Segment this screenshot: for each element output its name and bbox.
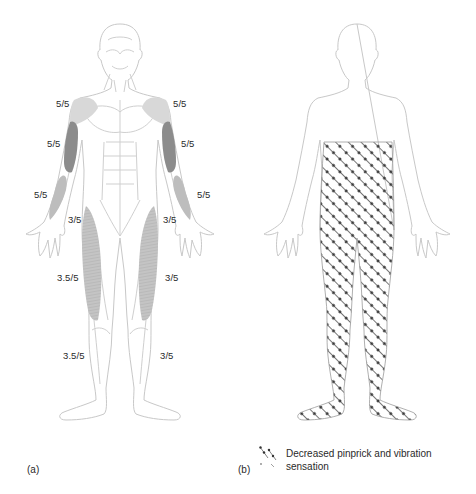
panel-a-muscle-strength: 5/5 5/5 5/5 5/5 5/5 5/5 3/5 3/5 3.5/5 3/… [0, 0, 240, 494]
panel-a-label: (a) [27, 464, 39, 475]
anatomical-body-front-muscles [0, 0, 240, 494]
grade-left-hip: 3/5 [163, 214, 177, 225]
affected-area-hatch [298, 140, 428, 430]
grade-right-upper-arm: 5/5 [47, 138, 61, 149]
grade-left-thigh: 3/5 [165, 272, 179, 283]
grade-right-thigh: 3.5/5 [57, 272, 79, 283]
grade-right-shoulder: 5/5 [56, 98, 70, 109]
grade-left-lower-leg: 3/5 [160, 350, 174, 361]
panel-b-sensory-deficit: (b) Decreased pinprick and vibration sen… [238, 0, 476, 494]
body-outline-silhouette [238, 0, 476, 494]
panel-b-label: (b) [238, 464, 250, 475]
grade-right-hip: 3/5 [68, 214, 82, 225]
legend-text: Decreased pinprick and vibration sensati… [286, 447, 466, 473]
grade-right-forearm: 5/5 [34, 189, 48, 200]
dotted-hatch-pattern-icon [258, 446, 280, 468]
grade-left-shoulder: 5/5 [173, 98, 187, 109]
grade-left-forearm: 5/5 [197, 189, 211, 200]
grade-left-upper-arm: 5/5 [181, 138, 195, 149]
grade-right-lower-leg: 3.5/5 [63, 350, 85, 361]
